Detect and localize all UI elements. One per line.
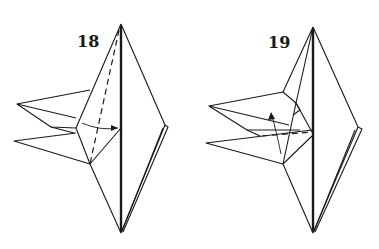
diagram-canvas: 18 19 xyxy=(0,0,379,249)
origami-diagram-svg xyxy=(0,0,379,249)
step-18-figure xyxy=(14,24,168,233)
arrowhead-icon xyxy=(268,112,275,120)
step-19-figure xyxy=(206,27,362,233)
arrowhead-icon xyxy=(111,125,118,131)
valley-fold-line xyxy=(90,30,119,164)
